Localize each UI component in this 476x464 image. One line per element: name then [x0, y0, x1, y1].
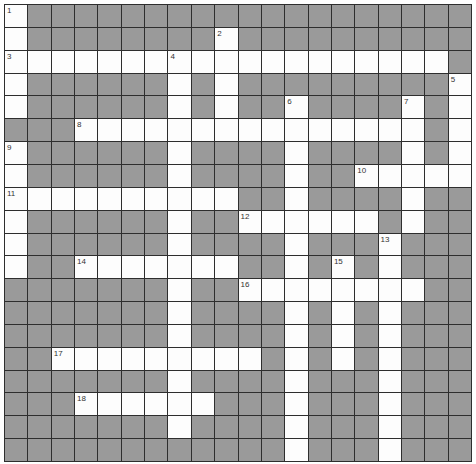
answer-cell[interactable]	[52, 188, 74, 210]
answer-cell[interactable]	[168, 165, 190, 187]
answer-cell[interactable]	[215, 256, 237, 278]
answer-cell[interactable]	[402, 142, 424, 164]
answer-cell[interactable]	[402, 51, 424, 73]
answer-cell[interactable]	[355, 119, 377, 141]
answer-cell[interactable]	[285, 211, 307, 233]
answer-cell[interactable]	[192, 348, 214, 370]
answer-cell[interactable]	[332, 51, 354, 73]
answer-cell[interactable]: 5	[449, 74, 471, 96]
answer-cell[interactable]	[5, 74, 27, 96]
answer-cell[interactable]	[285, 256, 307, 278]
answer-cell[interactable]	[98, 51, 120, 73]
answer-cell[interactable]	[5, 234, 27, 256]
answer-cell[interactable]: 9	[5, 142, 27, 164]
answer-cell[interactable]	[215, 119, 237, 141]
answer-cell[interactable]	[168, 234, 190, 256]
answer-cell[interactable]	[239, 51, 261, 73]
answer-cell[interactable]	[122, 188, 144, 210]
answer-cell[interactable]	[379, 371, 401, 393]
answer-cell[interactable]	[168, 74, 190, 96]
answer-cell[interactable]: 1	[5, 5, 27, 27]
answer-cell[interactable]	[285, 302, 307, 324]
answer-cell[interactable]	[145, 256, 167, 278]
answer-cell[interactable]	[168, 142, 190, 164]
answer-cell[interactable]	[449, 165, 471, 187]
answer-cell[interactable]	[262, 211, 284, 233]
answer-cell[interactable]	[379, 302, 401, 324]
answer-cell[interactable]	[168, 119, 190, 141]
answer-cell[interactable]	[285, 393, 307, 415]
answer-cell[interactable]	[168, 416, 190, 438]
answer-cell[interactable]: 16	[239, 279, 261, 301]
answer-cell[interactable]	[28, 51, 50, 73]
answer-cell[interactable]	[168, 188, 190, 210]
answer-cell[interactable]	[285, 188, 307, 210]
answer-cell[interactable]	[285, 416, 307, 438]
answer-cell[interactable]	[145, 119, 167, 141]
answer-cell[interactable]	[215, 51, 237, 73]
answer-cell[interactable]	[379, 279, 401, 301]
answer-cell[interactable]	[355, 279, 377, 301]
answer-cell[interactable]	[449, 96, 471, 118]
answer-cell[interactable]	[5, 28, 27, 50]
answer-cell[interactable]: 14	[75, 256, 97, 278]
answer-cell[interactable]	[122, 119, 144, 141]
answer-cell[interactable]	[168, 371, 190, 393]
answer-cell[interactable]	[52, 51, 74, 73]
answer-cell[interactable]	[192, 51, 214, 73]
answer-cell[interactable]	[379, 325, 401, 347]
answer-cell[interactable]	[285, 51, 307, 73]
answer-cell[interactable]	[285, 279, 307, 301]
answer-cell[interactable]	[309, 279, 331, 301]
answer-cell[interactable]	[5, 256, 27, 278]
answer-cell[interactable]	[5, 96, 27, 118]
answer-cell[interactable]	[75, 188, 97, 210]
answer-cell[interactable]	[425, 51, 447, 73]
answer-cell[interactable]	[379, 165, 401, 187]
answer-cell[interactable]: 11	[5, 188, 27, 210]
answer-cell[interactable]	[145, 51, 167, 73]
answer-cell[interactable]	[332, 119, 354, 141]
answer-cell[interactable]	[75, 51, 97, 73]
answer-cell[interactable]: 18	[75, 393, 97, 415]
answer-cell[interactable]	[449, 119, 471, 141]
answer-cell[interactable]	[168, 393, 190, 415]
answer-cell[interactable]	[425, 165, 447, 187]
answer-cell[interactable]	[379, 119, 401, 141]
answer-cell[interactable]	[285, 119, 307, 141]
answer-cell[interactable]	[332, 302, 354, 324]
answer-cell[interactable]: 10	[355, 165, 377, 187]
answer-cell[interactable]	[379, 348, 401, 370]
answer-cell[interactable]	[75, 348, 97, 370]
answer-cell[interactable]	[215, 188, 237, 210]
answer-cell[interactable]	[98, 348, 120, 370]
answer-cell[interactable]	[215, 96, 237, 118]
answer-cell[interactable]	[285, 234, 307, 256]
answer-cell[interactable]: 13	[379, 234, 401, 256]
answer-cell[interactable]	[402, 119, 424, 141]
answer-cell[interactable]	[192, 256, 214, 278]
answer-cell[interactable]	[379, 416, 401, 438]
answer-cell[interactable]	[145, 393, 167, 415]
answer-cell[interactable]	[355, 51, 377, 73]
answer-cell[interactable]	[122, 393, 144, 415]
answer-cell[interactable]	[285, 325, 307, 347]
answer-cell[interactable]	[98, 119, 120, 141]
answer-cell[interactable]	[5, 211, 27, 233]
answer-cell[interactable]	[5, 165, 27, 187]
answer-cell[interactable]	[145, 188, 167, 210]
answer-cell[interactable]: 2	[215, 28, 237, 50]
answer-cell[interactable]: 7	[402, 96, 424, 118]
answer-cell[interactable]	[122, 51, 144, 73]
answer-cell[interactable]	[379, 51, 401, 73]
answer-cell[interactable]	[332, 211, 354, 233]
answer-cell[interactable]	[262, 279, 284, 301]
answer-cell[interactable]: 8	[75, 119, 97, 141]
answer-cell[interactable]	[192, 119, 214, 141]
answer-cell[interactable]	[285, 439, 307, 461]
answer-cell[interactable]	[285, 371, 307, 393]
answer-cell[interactable]	[239, 119, 261, 141]
answer-cell[interactable]	[239, 348, 261, 370]
answer-cell[interactable]	[145, 348, 167, 370]
answer-cell[interactable]: 17	[52, 348, 74, 370]
